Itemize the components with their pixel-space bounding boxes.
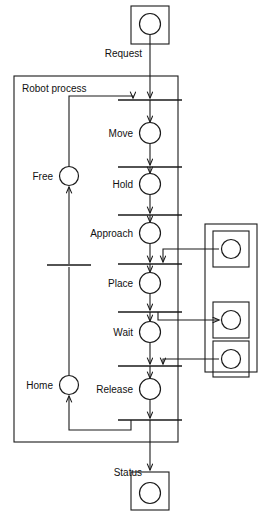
resource-place-3 xyxy=(222,350,241,369)
label-wait: Wait xyxy=(113,327,133,338)
arc-resource1-to-t4 xyxy=(163,249,219,262)
place-home xyxy=(60,376,79,395)
label-release: Release xyxy=(96,384,133,395)
place-release xyxy=(140,379,161,400)
place-wait xyxy=(140,322,161,343)
label-approach: Approach xyxy=(90,228,133,239)
arc-resource3-to-t6 xyxy=(163,359,219,364)
resource-place-1 xyxy=(222,240,241,259)
label-robot-process: Robot process xyxy=(22,83,86,94)
place-approach xyxy=(140,223,161,244)
resource-place-2 xyxy=(222,311,241,330)
request-place xyxy=(140,14,161,35)
place-move xyxy=(140,123,161,144)
resource-container-group xyxy=(205,224,257,377)
petri-net-diagram: Request Robot process Move Hold Approach xyxy=(0,0,267,520)
label-free: Free xyxy=(32,171,53,182)
label-request: Request xyxy=(105,48,142,59)
label-hold: Hold xyxy=(112,179,133,190)
label-move: Move xyxy=(109,128,134,139)
label-home: Home xyxy=(26,380,53,391)
arc-t7-to-home xyxy=(69,396,131,430)
place-free xyxy=(60,167,79,186)
place-hold xyxy=(140,174,161,195)
status-place xyxy=(140,483,161,504)
arc-t5-to-resource2 xyxy=(158,312,219,320)
place-place xyxy=(140,273,161,294)
label-place: Place xyxy=(108,278,133,289)
petri-net-canvas: Request Robot process Move Hold Approach xyxy=(0,0,267,520)
